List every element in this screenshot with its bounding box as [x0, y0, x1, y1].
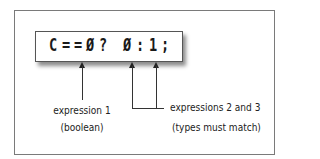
expr1-sublabel: (boolean) — [49, 121, 115, 135]
expr23-label: expressions 2 and 3 — [170, 101, 260, 115]
expr1-pointer-line — [82, 66, 83, 100]
code-char-one: 1 — [148, 34, 158, 56]
expr2-pointer-line — [132, 66, 133, 108]
code-char-semicolon: ; — [160, 34, 170, 56]
expr3-pointer-line — [156, 66, 157, 108]
expr1-label: expression 1 — [49, 104, 115, 118]
code-char-zero: Ø — [85, 34, 95, 56]
expr23-sublabel: (types must match) — [172, 121, 261, 135]
code-char-zero: Ø — [122, 34, 132, 56]
code-char-equals: = — [61, 34, 71, 56]
code-char-question: ? — [98, 34, 108, 56]
code-char-equals: = — [73, 34, 83, 56]
code-char-colon: : — [135, 34, 145, 56]
bracket-connector-line — [132, 108, 164, 109]
code-char-c: C — [48, 34, 58, 56]
